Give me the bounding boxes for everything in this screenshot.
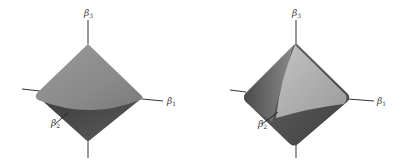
- double-cone-plot: β3 β1 β2: [0, 0, 200, 167]
- beta2-label: β2: [50, 118, 60, 129]
- octahedron-panel: β3 β1 β2: [200, 0, 402, 167]
- double-cone-panel: β3 β1 β2: [0, 0, 200, 167]
- beta1-axis-neg-line: [230, 90, 246, 92]
- octahedron-plot: β3 β1 β2: [200, 0, 402, 167]
- beta3-label: β3: [291, 8, 301, 19]
- beta1-label: β1: [376, 96, 386, 107]
- upper-cone-surface: [36, 44, 143, 110]
- beta1-axis-line: [348, 99, 374, 101]
- beta1-axis-neg-line: [22, 89, 40, 91]
- beta1-axis-line: [142, 99, 163, 101]
- beta1-label: β1: [166, 96, 176, 107]
- beta3-label: β3: [83, 8, 93, 19]
